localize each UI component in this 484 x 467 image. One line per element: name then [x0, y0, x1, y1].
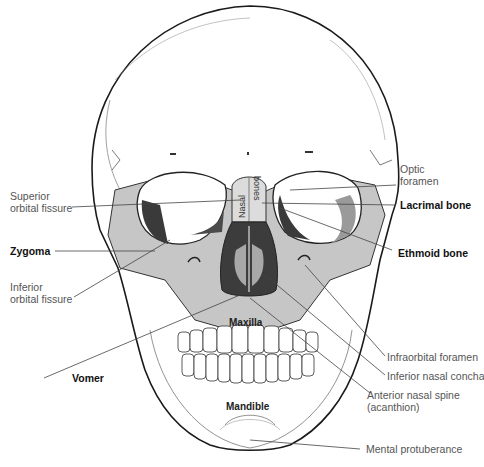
label-mental-protuberance: Mental protuberance — [366, 443, 462, 455]
label-infraorbital-foramen: Infraorbital foramen — [387, 351, 478, 363]
label-anterior-nasal-spine: Anterior nasal spine (acanthion) — [367, 389, 460, 413]
label-maxilla: Maxilla — [229, 317, 262, 329]
label-line: orbital fissure — [10, 293, 72, 305]
label-optic-foramen: Optic foramen — [400, 163, 439, 187]
label-line: Superior — [10, 190, 72, 202]
label-inferior-nasal-concha: Inferior nasal concha — [387, 370, 484, 382]
lower-teeth — [182, 354, 314, 383]
label-line: foramen — [400, 175, 439, 187]
label-line: (acanthion) — [367, 401, 460, 413]
label-line: Inferior — [10, 281, 72, 293]
label-line: orbital fissure — [10, 202, 72, 214]
label-ethmoid-bone: Ethmoid bone — [398, 247, 468, 259]
label-line: Optic — [400, 163, 439, 175]
label-superior-orbital-fissure: Superior orbital fissure — [10, 190, 72, 214]
label-lacrimal-bone: Lacrimal bone — [400, 199, 471, 211]
skull-diagram: Superior orbital fissure Zygoma Inferior… — [0, 0, 484, 467]
label-zygoma: Zygoma — [10, 245, 50, 257]
label-vomer: Vomer — [72, 372, 104, 384]
label-line: Anterior nasal spine — [367, 389, 460, 401]
label-bones: bones — [252, 176, 262, 201]
label-inferior-orbital-fissure: Inferior orbital fissure — [10, 281, 72, 305]
label-mandible: Mandible — [226, 401, 269, 413]
label-nasal: Nasal — [237, 195, 247, 218]
